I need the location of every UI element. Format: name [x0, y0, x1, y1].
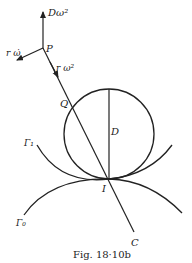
label-gamma1: Γ₁: [23, 138, 34, 148]
label-d: D: [110, 126, 119, 137]
label-r-omega-dot: r ω̇: [6, 48, 21, 58]
r-omega-dot-arrow-icon: [17, 48, 43, 60]
figure-caption: Fig. 18·10b: [73, 249, 131, 260]
label-r-omega2: r ω²: [56, 63, 75, 73]
label-gamma0: Γ₀: [15, 218, 26, 228]
gamma1-curve: [37, 145, 172, 180]
label-d-omega2: Dω²: [47, 7, 68, 18]
label-i: I: [101, 183, 107, 194]
diagram-canvas: Dω² P r ω̇ r ω² Q D Γ₁ Γ₀ I C Fig. 18·10…: [0, 0, 192, 263]
label-p: P: [45, 43, 53, 54]
label-c: C: [131, 237, 139, 248]
label-q: Q: [60, 98, 68, 109]
